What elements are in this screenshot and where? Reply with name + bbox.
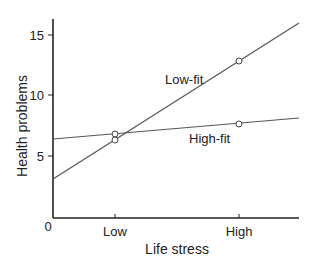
marker-high-fit-low [112, 131, 118, 137]
x-axis-label: Life stress [145, 241, 209, 257]
marker-low-fit-high [236, 58, 242, 64]
series-label-low-fit: Low-fit [165, 72, 204, 87]
y-tick-label-5: 5 [37, 149, 44, 164]
x-tick-label-low: Low [103, 224, 127, 239]
series-line-high-fit [53, 118, 299, 139]
y-tick-label-15: 15 [30, 28, 44, 43]
series-label-high-fit: High-fit [189, 131, 231, 146]
y-axis-label: Health problems [14, 75, 30, 177]
marker-high-fit-high [236, 121, 242, 127]
y-tick-label-10: 10 [30, 88, 44, 103]
marker-low-fit-low [112, 137, 118, 143]
chart: 15 10 5 0 Low High Life stress Health pr… [0, 0, 309, 269]
series-line-low-fit [53, 23, 299, 179]
x-tick-label-high: High [226, 224, 253, 239]
origin-label: 0 [44, 219, 51, 234]
